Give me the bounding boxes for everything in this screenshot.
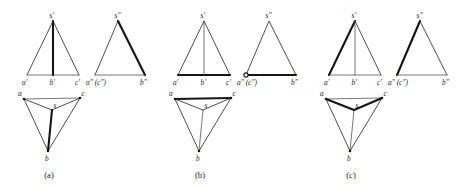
group-c-top-vertex-a-dot (325, 98, 328, 101)
group-a-front-left-label: a' (22, 78, 28, 87)
group-c-top-bottom-label: b (347, 154, 351, 163)
group-c-top-vertex-b-dot (349, 150, 352, 153)
group-c-side-apex-label: s" (417, 11, 424, 20)
group-a-side-right-label: b" (140, 78, 148, 87)
projection-group-c: s' a' b' c' s" a" (c") b" (320, 11, 450, 181)
group-b-top-left-label: a (169, 89, 173, 98)
group-a-caption: (a) (44, 170, 54, 180)
group-c-front-right-label: c' (377, 78, 382, 87)
group-c-front-left-label: a' (324, 78, 330, 87)
group-a-top-vertex-b-dot (47, 150, 50, 153)
group-c-front-left-edge-bold (329, 21, 355, 75)
group-b-top-vertex-a-dot (174, 98, 177, 101)
group-a-top-center-label: s (54, 101, 57, 110)
projection-group-b: s' a' b' c' s" a" (c") b" (169, 11, 299, 181)
group-a-side-view: s" a" (c") b" (86, 11, 148, 88)
group-a-front-apex-label: s' (50, 11, 55, 20)
group-a-top-bottom-label: b (45, 154, 49, 163)
group-c-caption: (c) (346, 170, 356, 180)
group-a-front-right-label: c' (75, 78, 80, 87)
figure-canvas: s' a' b' c' s" a" (c") b" (0, 0, 462, 189)
group-b-side-left-label: a" (c") (237, 78, 257, 87)
group-b-side-right-label: b" (291, 78, 299, 87)
group-b-front-mid-label: b' (201, 78, 207, 87)
group-b-top-outline (175, 98, 231, 151)
group-c-top-left-label: a (320, 89, 324, 98)
group-a-top-left-label: a (18, 89, 22, 98)
group-a-top-ac-edge (24, 98, 80, 99)
group-a-front-mid-label: b' (50, 78, 56, 87)
group-c-top-view: a s c b (320, 89, 388, 163)
group-b-top-right-label: c (233, 89, 237, 98)
group-c-side-left-edge-bold (397, 21, 420, 75)
descriptive-geometry-figure: s' a' b' c' s" a" (c") b" (0, 0, 462, 189)
group-c-top-outline (326, 98, 382, 151)
group-a-top-vertex-a-dot (23, 98, 26, 101)
group-b-side-vertex-a-ring (244, 73, 248, 77)
group-a-side-apex-label: s" (115, 11, 122, 20)
group-c-top-right-label: c (384, 89, 388, 98)
group-c-front-view: s' a' b' c' (324, 11, 382, 88)
group-a-side-right-edge-bold (118, 21, 145, 75)
group-c-side-left-label: a" (c") (388, 78, 408, 87)
group-a-front-view: s' a' b' c' (22, 11, 80, 88)
group-a-top-view: a s c b (18, 89, 86, 163)
group-b-side-outline (246, 21, 296, 75)
group-c-side-right-edge (420, 21, 447, 75)
group-b-front-right-label: c' (226, 78, 231, 87)
group-b-front-view: s' a' b' c' (173, 11, 231, 88)
group-a-side-left-edge (95, 21, 118, 75)
group-c-front-apex-label: s' (352, 11, 357, 20)
projection-group-a: s' a' b' c' s" a" (c") b" (18, 11, 148, 181)
group-b-front-left-label: a' (173, 78, 179, 87)
group-c-top-ac-edge (326, 98, 382, 99)
group-b-front-apex-label: s' (201, 11, 206, 20)
group-a-top-outline (24, 98, 80, 151)
group-b-top-center-label: s (205, 101, 208, 110)
group-a-side-left-label: a" (c") (86, 78, 106, 87)
group-c-front-right-edge (355, 21, 381, 75)
group-a-top-right-label: c (82, 89, 86, 98)
group-c-top-center-label: s (356, 101, 359, 110)
group-b-top-bottom-label: b (196, 154, 200, 163)
group-b-caption: (b) (195, 170, 205, 180)
group-b-side-apex-label: s" (266, 11, 273, 20)
group-b-top-vertex-b-dot (198, 150, 201, 153)
group-b-top-view: a s c b (169, 89, 237, 163)
group-b-top-ac-edge-bold (175, 98, 231, 99)
group-c-side-view: s" a" (c") b" (388, 11, 450, 88)
group-c-front-mid-label: b' (352, 78, 358, 87)
group-c-side-right-label: b" (442, 78, 450, 87)
group-b-side-view: s" a" (c") b" (237, 11, 299, 88)
